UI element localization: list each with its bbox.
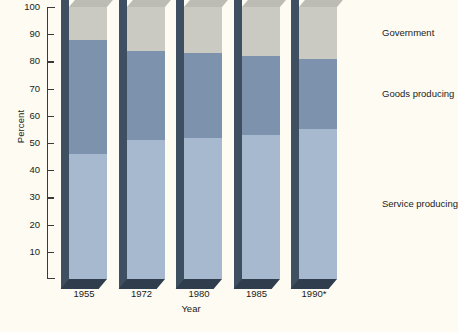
y-tick-label: 20 (14, 220, 40, 230)
y-axis-tick-labels: 102030405060708090100 (14, 0, 40, 332)
bar-side-face (119, 0, 127, 289)
legend-label-government: Government (382, 27, 434, 38)
bar-segment-service-producing[interactable] (69, 154, 107, 279)
y-tick-label: 60 (14, 111, 40, 121)
bar-segment-goods-producing[interactable] (184, 53, 222, 137)
legend-label-service-producing: Service producing (382, 198, 458, 209)
y-tick-mark (47, 89, 54, 90)
x-axis-tick-labels: 19551972198019851990* (47, 288, 377, 302)
bar-segment-government[interactable] (127, 7, 165, 51)
y-tick-mark (47, 225, 54, 226)
x-tick-label: 1955 (51, 288, 117, 299)
bar-segment-service-producing[interactable] (184, 138, 222, 279)
bar-segment-goods-producing[interactable] (299, 59, 337, 130)
bar-segment-government[interactable] (69, 7, 107, 40)
bar-side-face (291, 0, 299, 289)
y-tick-label: 80 (14, 56, 40, 66)
x-tick-label: 1972 (109, 288, 175, 299)
y-tick-label: 30 (14, 192, 40, 202)
y-tick-mark (47, 116, 54, 117)
y-tick-label: 100 (14, 2, 40, 12)
bar-segment-goods-producing[interactable] (242, 56, 280, 135)
bar-segment-service-producing[interactable] (127, 140, 165, 279)
plot-area (47, 7, 377, 279)
x-tick-label: 1980 (166, 288, 232, 299)
bar-segment-government[interactable] (184, 7, 222, 53)
bar-side-face (61, 0, 69, 289)
bar-segment-government[interactable] (299, 7, 337, 59)
y-tick-label: 90 (14, 29, 40, 39)
legend-label-goods-producing: Goods producing (382, 88, 454, 99)
y-tick-mark (47, 170, 54, 171)
y-tick-mark (47, 61, 54, 62)
y-tick-label: 40 (14, 165, 40, 175)
y-tick-label: 70 (14, 84, 40, 94)
x-tick-label: 1985 (224, 288, 290, 299)
bar-1955[interactable] (61, 7, 107, 279)
x-tick-label: 1990* (281, 288, 347, 299)
bar-side-face (234, 0, 242, 289)
bar-segment-goods-producing[interactable] (127, 51, 165, 141)
bar-segment-service-producing[interactable] (242, 135, 280, 279)
bar-1990[interactable] (291, 7, 337, 279)
y-tick-label: 50 (14, 138, 40, 148)
bar-front-face (127, 7, 165, 279)
bar-1985[interactable] (234, 7, 280, 279)
bar-front-face (299, 7, 337, 279)
bar-1972[interactable] (119, 7, 165, 279)
x-axis-title: Year (47, 303, 335, 314)
bar-front-face (69, 7, 107, 279)
bar-segment-service-producing[interactable] (299, 129, 337, 279)
bar-front-face (184, 7, 222, 279)
y-tick-mark (47, 143, 54, 144)
y-tick-mark (47, 197, 54, 198)
bar-side-face (176, 0, 184, 289)
bar-1980[interactable] (176, 7, 222, 279)
bar-front-face (242, 7, 280, 279)
y-tick-mark (47, 252, 54, 253)
bar-segment-goods-producing[interactable] (69, 40, 107, 154)
y-tick-mark (47, 34, 54, 35)
bar-segment-government[interactable] (242, 7, 280, 56)
y-tick-label: 10 (14, 247, 40, 257)
